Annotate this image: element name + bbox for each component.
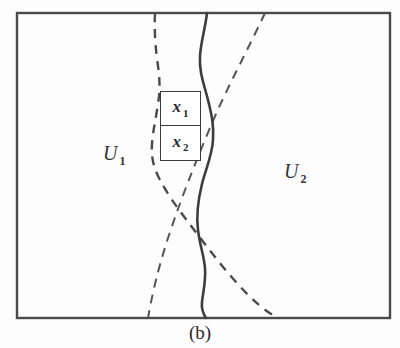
cell-x1-label: x1 [173,98,189,118]
cell-x1-base: x [173,97,182,116]
cell-x2-base: x [173,132,182,151]
region-label-u2-subscript: 2 [298,172,306,186]
cell-x2: x2 [161,126,200,160]
region-label-u2-base: U [284,160,298,182]
outer-frame-rect [17,13,390,318]
figure-caption: (b) [0,322,400,344]
figure-container: U1 U2 x1 x2 (b) [0,0,400,348]
dashed-curve-left [152,13,278,318]
solid-boundary-curve [197,13,213,318]
region-label-u1-base: U [103,142,117,164]
cell-x1-subscript: 1 [181,107,189,119]
cell-x2-label: x2 [173,133,189,153]
region-label-u1-subscript: 1 [117,154,125,168]
cell-x2-subscript: 2 [181,141,189,153]
figure-drawing [0,0,400,348]
cell-x1: x1 [161,92,200,126]
region-label-u1: U1 [103,143,125,167]
region-label-u2: U2 [284,161,306,185]
two-cell-box: x1 x2 [160,91,201,161]
